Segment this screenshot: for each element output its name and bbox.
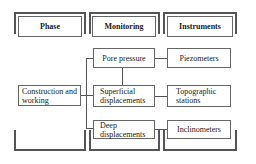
connector-trunk-deep bbox=[86, 128, 93, 129]
monitoring-superficial-displacements-label: Superficial displacements bbox=[100, 87, 151, 105]
instrument-piezometers: Piezometers bbox=[167, 48, 231, 68]
monitoring-trunk-line bbox=[86, 58, 87, 129]
instruments-column-bottom-bracket bbox=[163, 130, 237, 151]
monitoring-pore-pressure: Pore pressure bbox=[93, 48, 155, 68]
header-monitoring-label: Monitoring bbox=[104, 22, 143, 31]
phase-construction-working-label: Construction and working bbox=[22, 87, 77, 105]
instrument-piezometers-label: Piezometers bbox=[179, 54, 218, 63]
header-phase-label: Phase bbox=[40, 22, 60, 31]
header-instruments-label: Instruments bbox=[179, 22, 221, 31]
monitoring-column-bottom-bracket bbox=[89, 130, 160, 151]
header-phase: Phase bbox=[18, 16, 82, 37]
instrument-topographic-stations: Topographic stations bbox=[167, 85, 231, 107]
monitoring-superficial-displacements: Superficial displacements bbox=[93, 85, 155, 107]
phase-column-bottom-bracket bbox=[14, 130, 86, 151]
connector-pore-superficial bbox=[122, 68, 123, 85]
connector-pore-piezometers bbox=[155, 58, 167, 59]
phase-construction-working: Construction and working bbox=[18, 85, 81, 106]
header-instruments: Instruments bbox=[167, 16, 233, 37]
header-monitoring: Monitoring bbox=[92, 16, 156, 37]
connector-phase-trunk bbox=[81, 95, 93, 96]
monitoring-pore-pressure-label: Pore pressure bbox=[102, 54, 145, 63]
connector-trunk-pore bbox=[86, 58, 93, 59]
instrument-topographic-stations-label: Topographic stations bbox=[176, 87, 227, 105]
connector-superficial-topographic bbox=[155, 96, 167, 97]
